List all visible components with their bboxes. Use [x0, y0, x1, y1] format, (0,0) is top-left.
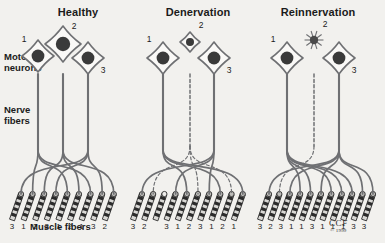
motor-neuron-label: 3 — [352, 65, 357, 75]
muscle-fiber-label: 1 — [209, 222, 214, 231]
degeneration-spike — [306, 34, 311, 37]
motor-neuron-soma — [310, 36, 318, 44]
muscle-fiber-label: 1 — [289, 222, 294, 231]
muscle-fiber-label: 3 — [91, 222, 96, 231]
muscle-fiber-label: 3 — [10, 222, 15, 231]
degeneration-spike — [317, 34, 322, 37]
motor-neuron-nucleus — [157, 52, 170, 65]
motor-neuron-label: 2 — [199, 20, 204, 30]
motor-neuron-nucleus — [208, 52, 221, 65]
muscle-fiber-label: 2 — [33, 222, 38, 231]
muscle-fiber-label: 2 — [268, 222, 273, 231]
muscle-fiber-label: 1 — [232, 222, 237, 231]
muscle-fiber-label: 2 — [187, 222, 192, 231]
motor-endplate — [162, 191, 167, 196]
muscle-fiber-label: 1 — [320, 222, 325, 231]
motor-neuron-label: 3 — [101, 65, 106, 75]
muscle-fiber-label: 2 — [220, 222, 225, 231]
muscle-fiber-label: 3 — [310, 222, 315, 231]
motor-neuron-label: 2 — [72, 21, 77, 31]
muscle-fiber-label: 1 — [21, 222, 26, 231]
muscle-fiber-label: 2 — [68, 222, 73, 231]
degeneration-spike — [311, 44, 313, 49]
motor-neuron-nucleus — [32, 50, 45, 63]
nerve-fiber-branch — [339, 150, 373, 194]
muscle-fiber-label: 2 — [142, 222, 147, 231]
muscle-fiber-label: 1 — [176, 222, 181, 231]
nerve-fiber-branch — [142, 150, 214, 194]
muscle-fiber-label: 3 — [279, 222, 284, 231]
degeneration-spike — [311, 31, 313, 36]
motor-neuron-label: 2 — [323, 19, 328, 29]
diagram-artwork: 31231213212332312312112332311311133123 — [0, 0, 385, 243]
muscle-fiber-label: 3 — [45, 222, 50, 231]
motor-neuron-nucleus — [56, 37, 70, 51]
motor-neuron-label: 1 — [271, 34, 276, 44]
motor-neuron-label: 1 — [22, 34, 27, 44]
muscle-fiber-label: 1 — [331, 222, 336, 231]
degeneration-spike — [306, 42, 311, 45]
muscle-fiber-label: 2 — [103, 222, 108, 231]
motor-neuron-nucleus — [333, 52, 346, 65]
muscle-fiber-label: 1 — [341, 222, 346, 231]
degeneration-spike — [315, 44, 317, 49]
figure-canvas: Healthy Denervation Reinnervation Motor … — [0, 0, 385, 243]
muscle-fiber-label: 3 — [258, 222, 263, 231]
motor-neuron-nucleus — [186, 38, 194, 46]
nerve-fiber-branch — [153, 146, 190, 194]
motor-neuron-label: 1 — [147, 34, 152, 44]
degeneration-spike — [315, 31, 317, 36]
nerve-fiber-branch — [287, 150, 342, 194]
motor-neuron-label: 3 — [227, 65, 232, 75]
muscle-fiber-label: 1 — [79, 222, 84, 231]
muscle-fiber-label: 3 — [362, 222, 367, 231]
muscle-fiber-label: 3 — [351, 222, 356, 231]
muscle-fiber-label: 3 — [131, 222, 136, 231]
muscle-fiber-label: 1 — [56, 222, 61, 231]
muscle-fiber-label: 1 — [299, 222, 304, 231]
muscle-fiber-label: 3 — [164, 222, 169, 231]
motor-neuron-nucleus — [281, 52, 294, 65]
muscle-fiber-label: 3 — [198, 222, 203, 231]
degeneration-spike — [317, 42, 322, 45]
motor-neuron-nucleus — [82, 52, 95, 65]
